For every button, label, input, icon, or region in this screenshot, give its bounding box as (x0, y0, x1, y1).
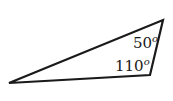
angle-label-bottom-right: 110o (115, 56, 150, 75)
triangle-diagram: 50o 110o (0, 0, 173, 101)
diagram-svg: 50o 110o (0, 0, 173, 101)
angle-label-top-right: 50o (133, 33, 158, 52)
